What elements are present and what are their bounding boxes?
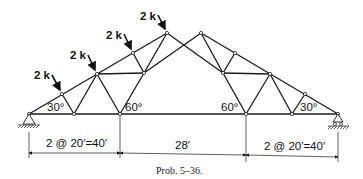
ground-hatch-left [18,125,39,128]
load-label-1: 2 k [34,69,51,81]
angle-label-right-inner: 60° [221,101,238,113]
load-label-4: 2 k [140,10,157,22]
dimension-label-center: 28′ [175,139,190,151]
roller-support-right [328,114,349,129]
angle-label-left-base: 30° [47,101,64,113]
angle-label-right-base: 30° [300,101,317,113]
pin-support-left [18,114,40,128]
web-members-right [201,33,305,114]
dimension-line-right [246,155,338,157]
angle-label-left-inner: 60° [125,101,142,113]
dimension-label-right: 2 @ 20′=40′ [264,140,325,152]
load-arrow-1 [52,75,60,90]
load-arrow-4 [158,15,165,29]
dimension-label-left: 2 @ 20′=40′ [46,137,107,149]
web-members-left [62,33,167,114]
ground-hatch-right [328,126,349,129]
figure-caption: Prob. 5–36. [156,165,202,176]
load-label-2: 2 k [70,49,87,61]
load-arrow-3 [124,34,131,49]
load-arrow-2 [88,55,95,70]
dimension-line-center [120,153,246,155]
truss-diagram: 2 k 2 k 2 k 2 k 30° 60° 60° 30° 2 @ 20′=… [0,0,363,179]
load-label-3: 2 k [106,29,123,41]
